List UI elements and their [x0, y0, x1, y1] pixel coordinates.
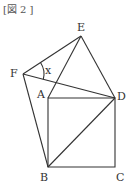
label-b: B — [40, 171, 48, 184]
figure-caption: [図 2 ] — [3, 4, 34, 15]
segment-ed — [81, 36, 115, 98]
label-e: E — [77, 21, 85, 34]
segment-ae — [48, 36, 81, 98]
label-a: A — [36, 88, 46, 101]
label-d: D — [117, 90, 126, 103]
label-angle-x: x — [45, 64, 52, 77]
label-c: C — [116, 171, 124, 184]
segment-fe — [23, 36, 81, 74]
geometry-figure: [図 2 ] E F x A D B C — [0, 0, 135, 189]
label-f: F — [10, 67, 18, 80]
segment-bd — [48, 98, 115, 167]
angle-x-arc — [41, 63, 44, 80]
